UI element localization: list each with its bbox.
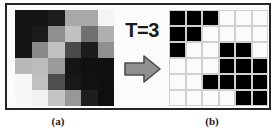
grayscale-cell-r2-c2 bbox=[32, 26, 49, 42]
grayscale-cell-r6-c5 bbox=[81, 90, 98, 106]
grayscale-cell-r2-c3 bbox=[48, 26, 65, 42]
grayscale-cell-r4-c5 bbox=[81, 58, 98, 74]
binary-cell-r4-c1 bbox=[169, 58, 186, 74]
grayscale-cell-r3-c1 bbox=[15, 42, 32, 58]
binary-cell-r1-c3 bbox=[202, 10, 219, 26]
binary-cell-r4-c5 bbox=[235, 58, 252, 74]
binary-cell-r5-c2 bbox=[186, 74, 203, 90]
binary-cell-r4-c6 bbox=[252, 58, 269, 74]
grayscale-cell-r5-c2 bbox=[32, 74, 49, 90]
binary-cell-r4-c2 bbox=[186, 58, 203, 74]
subcaption-a: (a) bbox=[38, 115, 78, 127]
binary-cell-r6-c5 bbox=[235, 90, 252, 106]
binary-cell-r6-c3 bbox=[202, 90, 219, 106]
grayscale-cell-r5-c4 bbox=[65, 74, 82, 90]
grayscale-cell-r6-c1 bbox=[15, 90, 32, 106]
binary-cell-r1-c2 bbox=[186, 10, 203, 26]
grayscale-cell-r6-c3 bbox=[48, 90, 65, 106]
grayscale-cell-r2-c6 bbox=[98, 26, 115, 42]
binary-cell-r1-c5 bbox=[235, 10, 252, 26]
binary-cell-r5-c6 bbox=[252, 74, 269, 90]
binary-cell-r2-c3 bbox=[202, 26, 219, 42]
grayscale-cell-r3-c4 bbox=[65, 42, 82, 58]
binary-cell-r5-c1 bbox=[169, 74, 186, 90]
subcaption-b: (b) bbox=[192, 115, 232, 127]
binary-cell-r2-c4 bbox=[219, 26, 236, 42]
transform-annotation: T=3 bbox=[115, 10, 169, 106]
grayscale-cell-r6-c6 bbox=[98, 90, 115, 106]
grayscale-cell-r4-c6 bbox=[98, 58, 115, 74]
binary-cell-r3-c5 bbox=[235, 42, 252, 58]
grayscale-cell-r3-c3 bbox=[48, 42, 65, 58]
grayscale-cell-r4-c1 bbox=[15, 58, 32, 74]
grayscale-cell-r5-c3 bbox=[48, 74, 65, 90]
binary-cell-r6-c2 bbox=[186, 90, 203, 106]
grayscale-cell-r5-c1 bbox=[15, 74, 32, 90]
grayscale-cell-r1-c4 bbox=[65, 10, 82, 26]
grayscale-cell-r1-c6 bbox=[98, 10, 115, 26]
grayscale-cell-r4-c4 bbox=[65, 58, 82, 74]
binary-cell-r3-c6 bbox=[252, 42, 269, 58]
binary-cell-r3-c4 bbox=[219, 42, 236, 58]
grayscale-cell-r3-c2 bbox=[32, 42, 49, 58]
grayscale-cell-r3-c6 bbox=[98, 42, 115, 58]
grayscale-cell-r5-c6 bbox=[98, 74, 115, 90]
binary-cell-r3-c2 bbox=[186, 42, 203, 58]
grayscale-cell-r1-c2 bbox=[32, 10, 49, 26]
binary-cell-r6-c4 bbox=[219, 90, 236, 106]
binary-cell-r4-c3 bbox=[202, 58, 219, 74]
binary-cell-r3-c1 bbox=[169, 42, 186, 58]
binary-cell-r1-c4 bbox=[219, 10, 236, 26]
binary-cell-r5-c5 bbox=[235, 74, 252, 90]
threshold-label: T=3 bbox=[115, 20, 169, 40]
grayscale-cell-r5-c5 bbox=[81, 74, 98, 90]
binary-cell-r6-c6 bbox=[252, 90, 269, 106]
grayscale-cell-r1-c1 bbox=[15, 10, 32, 26]
binary-cell-r1-c6 bbox=[252, 10, 269, 26]
grayscale-cell-r6-c2 bbox=[32, 90, 49, 106]
figure-root: T=3 (a) (b) bbox=[0, 0, 276, 139]
binary-cell-r5-c3 bbox=[202, 74, 219, 90]
binary-cell-r2-c5 bbox=[235, 26, 252, 42]
binary-cell-r1-c1 bbox=[169, 10, 186, 26]
grayscale-cell-r1-c3 bbox=[48, 10, 65, 26]
grayscale-cell-r4-c2 bbox=[32, 58, 49, 74]
right-arrow-icon bbox=[124, 54, 162, 88]
binary-cell-r2-c6 bbox=[252, 26, 269, 42]
figure-panel-frame: T=3 bbox=[5, 3, 271, 110]
grayscale-cell-r2-c5 bbox=[81, 26, 98, 42]
binary-cell-r2-c1 bbox=[169, 26, 186, 42]
grayscale-cell-r2-c4 bbox=[65, 26, 82, 42]
grayscale-cell-r2-c1 bbox=[15, 26, 32, 42]
grayscale-cell-r6-c4 bbox=[65, 90, 82, 106]
binary-cell-r2-c2 bbox=[186, 26, 203, 42]
binary-cell-r5-c4 bbox=[219, 74, 236, 90]
grayscale-cell-r1-c5 bbox=[81, 10, 98, 26]
grayscale-cell-r4-c3 bbox=[48, 58, 65, 74]
grayscale-cell-r3-c5 bbox=[81, 42, 98, 58]
grayscale-input-grid bbox=[15, 10, 114, 106]
binary-cell-r3-c3 bbox=[202, 42, 219, 58]
binary-output-grid bbox=[169, 10, 268, 106]
binary-cell-r4-c4 bbox=[219, 58, 236, 74]
binary-cell-r6-c1 bbox=[169, 90, 186, 106]
